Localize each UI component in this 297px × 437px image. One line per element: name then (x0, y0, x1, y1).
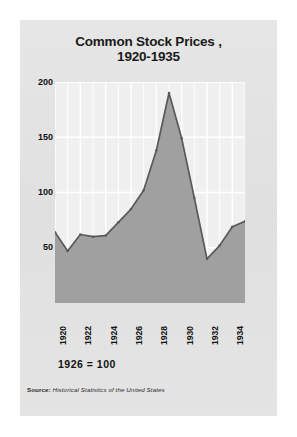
baseline-note: 1926 = 100 (58, 358, 116, 370)
x-axis-tick-1924: 1924 (110, 326, 119, 345)
y-axis-tick-50: 50 (23, 243, 53, 252)
y-axis-tick-100: 100 (23, 188, 53, 197)
source-note: Source: Historical Statistics of the Uni… (27, 386, 165, 393)
source-title: Historical Statistics of the United Stat… (51, 386, 165, 393)
source-label: Source: (27, 386, 51, 393)
x-axis-tick-1934: 1934 (236, 326, 245, 345)
chart-card: Common Stock Prices , 1920-1935 20015010… (20, 20, 277, 416)
x-axis-tick-1926: 1926 (135, 326, 144, 345)
x-axis-tick-1920: 1920 (59, 326, 68, 345)
x-axis-tick-1932: 1932 (211, 326, 220, 345)
plot-area (55, 82, 245, 303)
x-axis-tick-1928: 1928 (160, 326, 169, 345)
y-axis-tick-150: 150 (23, 133, 53, 142)
x-axis-tick-1922: 1922 (84, 326, 93, 345)
title-line-2: 1920-1935 (20, 49, 277, 64)
page-title: Common Stock Prices , 1920-1935 (20, 34, 277, 64)
y-axis-tick-200: 200 (23, 78, 53, 87)
y-axis: 20015010050 (20, 82, 53, 303)
x-axis: 19201922192419261928193019321934 (55, 305, 245, 347)
x-axis-tick-1930: 1930 (186, 326, 195, 345)
area-chart-svg (55, 82, 245, 303)
title-line-1: Common Stock Prices , (75, 34, 222, 49)
